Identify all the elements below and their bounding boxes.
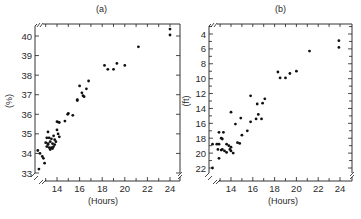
x-tick-label: 24 [335, 183, 346, 194]
data-point [218, 143, 221, 146]
y-tick-label: 14 [195, 103, 206, 114]
y-tick-label: 6 [201, 43, 206, 54]
data-point [257, 113, 260, 116]
y-axis-ticks: 46810121416182022 [195, 27, 352, 174]
data-point [218, 131, 221, 134]
x-tick-label: 18 [269, 183, 280, 194]
x-axis-ticks: 141618202224 [220, 24, 345, 194]
panel-a-ylabel: (%) [4, 94, 14, 108]
data-point [239, 117, 242, 120]
y-tick-label: 12 [195, 88, 206, 99]
figure: 1416182022243334353637383940 14161820222… [0, 0, 361, 219]
y-tick-label: 20 [195, 148, 206, 159]
panel-b-ylabel: (ft) [181, 96, 191, 107]
data-point [279, 77, 282, 80]
axis-break-marks [205, 23, 354, 184]
x-tick-label: 14 [226, 183, 237, 194]
data-point [249, 94, 252, 97]
data-point [222, 131, 225, 134]
data-point [277, 71, 280, 74]
data-point [295, 70, 298, 73]
y-tick-label: 22 [195, 163, 206, 174]
data-point [230, 150, 233, 153]
y-tick-label: 10 [195, 73, 206, 84]
y-tick-label: 18 [195, 133, 206, 144]
data-point [217, 148, 220, 151]
data-point [221, 138, 224, 141]
panel-b-xlabel: (Hours) [268, 196, 298, 206]
data-point [256, 103, 259, 106]
x-tick-label: 16 [248, 183, 259, 194]
panel-a-title: (a) [96, 4, 107, 14]
data-point [261, 102, 264, 105]
plot-frame [209, 24, 352, 181]
data-point [211, 143, 214, 146]
panel-a-xlabel: (Hours) [88, 196, 118, 206]
y-tick-label: 4 [201, 29, 206, 40]
data-point [241, 134, 244, 137]
data-point [338, 39, 341, 42]
data-point [211, 167, 214, 170]
data-point [232, 152, 235, 155]
data-point [230, 111, 233, 114]
panel-b-title: (b) [275, 4, 286, 14]
x-tick-label: 22 [313, 183, 324, 194]
data-point [260, 118, 263, 121]
data-point [234, 123, 237, 126]
y-tick-label: 16 [195, 118, 206, 129]
scatter-panel-b: 14161820222446810121416182022 [0, 0, 361, 219]
data-point [289, 72, 292, 75]
data-point [236, 141, 239, 144]
data-point [263, 97, 266, 100]
y-tick-label: 8 [201, 58, 206, 69]
data-point [308, 50, 311, 53]
data-point [218, 157, 221, 160]
data-point [338, 46, 341, 49]
data-points [211, 39, 340, 169]
data-point [225, 151, 228, 154]
data-point [246, 129, 249, 132]
data-point [249, 120, 252, 123]
x-tick-label: 20 [291, 183, 302, 194]
data-point [284, 77, 287, 80]
data-point [255, 118, 258, 121]
